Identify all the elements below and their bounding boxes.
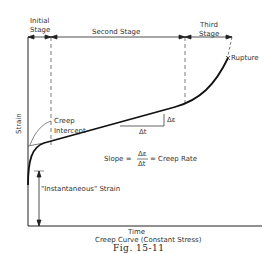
third-stage-label-1: Third [200,21,218,29]
slope-denominator: Δt [138,160,146,168]
rupture-label: Rupture [231,54,259,62]
y-axis-label: Strain [15,113,23,134]
delta-epsilon-label: Δε [167,116,176,124]
delta-t-label: Δt [139,128,147,136]
initial-stage-label-1: Initial [30,17,49,25]
figure-caption: Fig. 15-11 [113,243,165,253]
creep-intercept-label-2: Intercept [54,127,86,135]
initial-stage-label-2: Stage [30,26,50,34]
x-axis-label: Time [128,228,145,236]
third-stage-label-2: Stage [199,30,219,38]
second-stage-label: Second Stage [92,28,140,36]
slope-numerator: Δε [138,150,147,158]
creep-intercept-label-1: Creep [54,117,75,125]
slope-suffix: = Creep Rate [150,155,197,163]
slope-prefix: Slope = [104,155,132,163]
instantaneous-strain-label: "Instantaneous" Strain [41,185,120,193]
instantaneous-strain-arrow [34,171,44,226]
